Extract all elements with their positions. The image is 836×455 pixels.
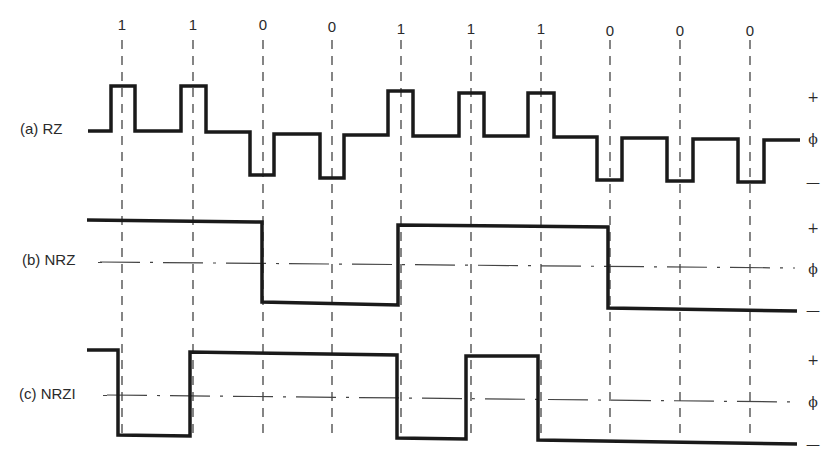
nrz-label: (b) NRZ — [22, 251, 75, 268]
nrzi-label: (c) NRZI — [19, 385, 76, 402]
waveform-diagram — [0, 0, 836, 455]
nrzi-zero-level: ϕ — [808, 394, 818, 410]
nrz-zero-level: ϕ — [808, 261, 818, 277]
bit-label: 1 — [189, 16, 197, 33]
rz-zero-level: ϕ — [808, 131, 818, 147]
nrz-plus-level: + — [807, 220, 819, 236]
rz-plus-level: + — [807, 89, 819, 105]
bit-guide-lines — [122, 40, 750, 440]
bit-label: 1 — [537, 20, 545, 37]
bit-label: 1 — [118, 16, 126, 33]
nrzi-label-tick — [103, 395, 107, 396]
bit-label: 0 — [259, 16, 267, 33]
nrzi-plus-level: + — [807, 352, 819, 368]
bit-label: 0 — [676, 22, 684, 39]
zero-reference-lines — [100, 262, 795, 402]
rz-minus-level: — — [806, 174, 820, 190]
bit-label: 1 — [467, 20, 475, 37]
nrz-minus-level: — — [806, 302, 820, 318]
nrzi-minus-level: — — [806, 436, 820, 452]
rz-waveform — [88, 86, 800, 182]
rz-label: (a) RZ — [20, 120, 63, 137]
bit-label: 1 — [397, 20, 405, 37]
bit-label: 0 — [328, 18, 336, 35]
bit-label: 0 — [606, 22, 614, 39]
nrz-label-tick — [98, 262, 102, 263]
bit-label: 0 — [746, 22, 754, 39]
